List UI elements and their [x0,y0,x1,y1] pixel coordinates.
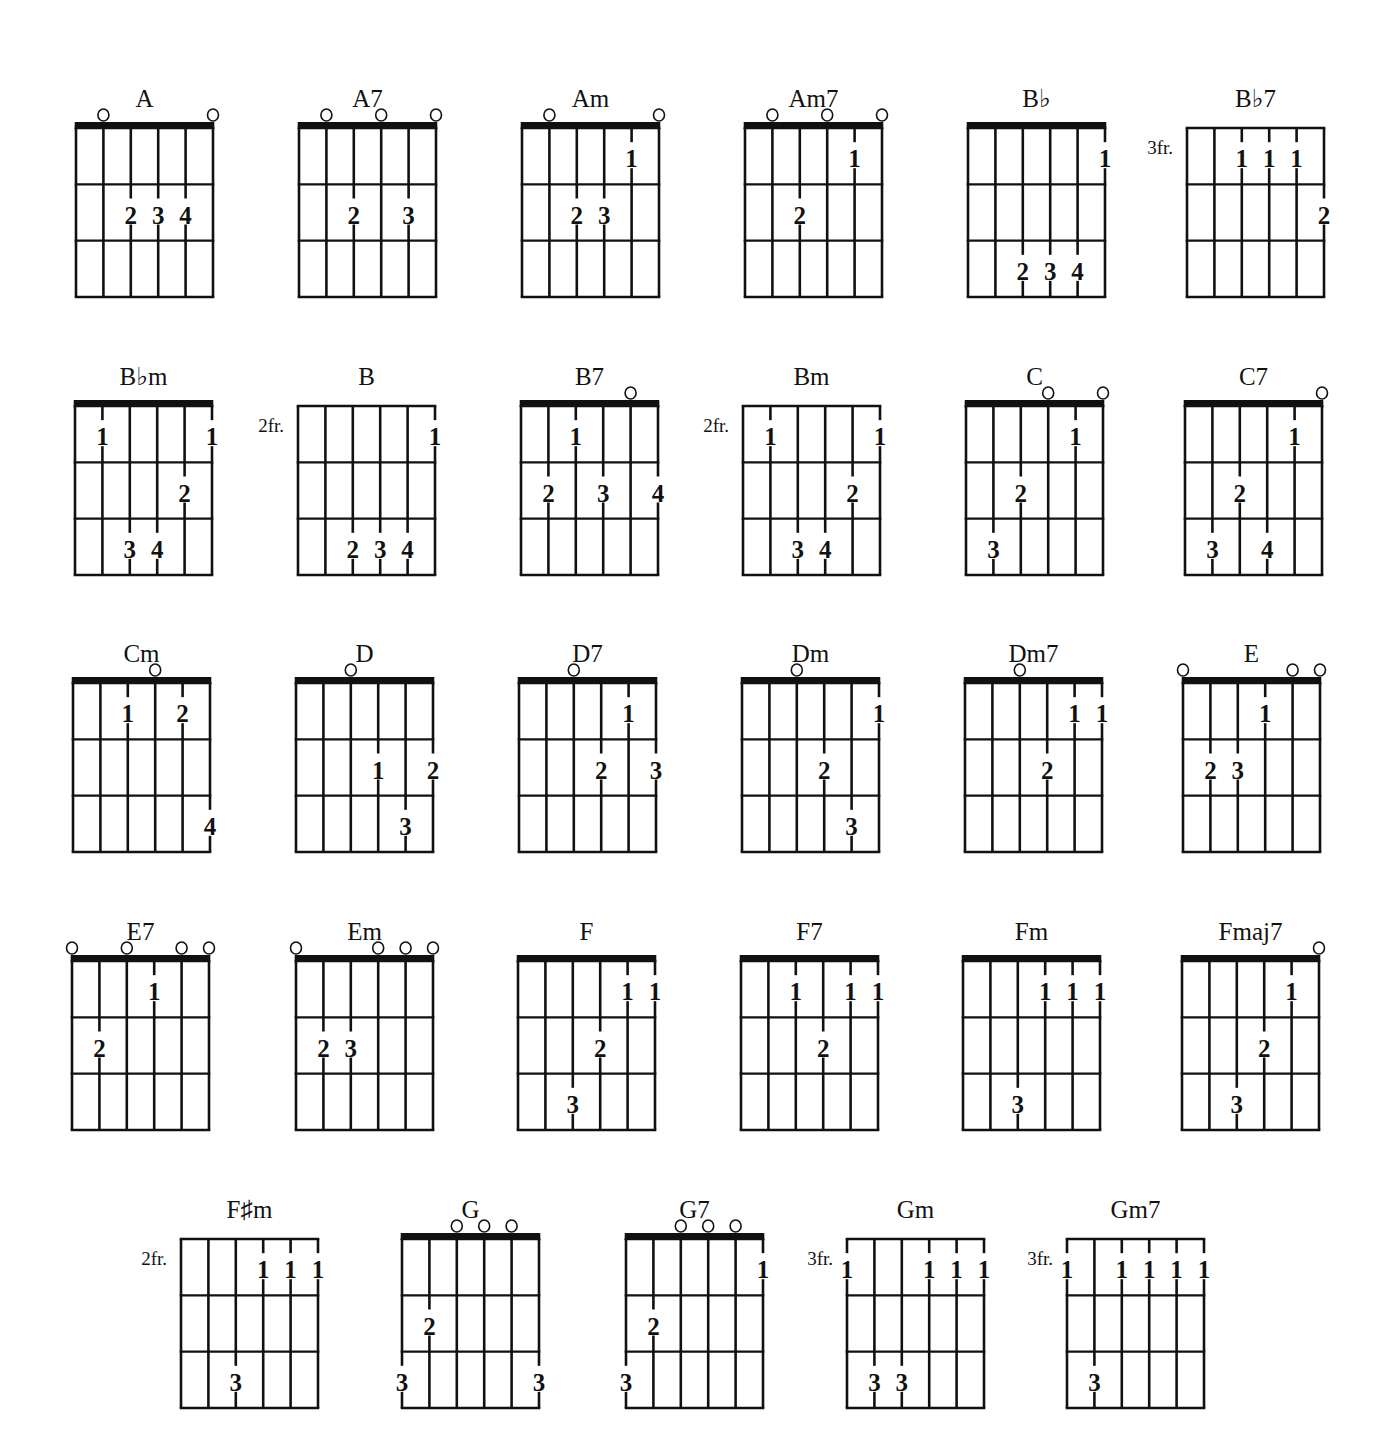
finger-number: 3 [533,1369,546,1396]
nut-bar [740,955,880,962]
finger-number: 3 [396,1369,409,1396]
finger-number: 3 [399,813,412,840]
finger-number: 1 [206,423,219,450]
open-string-icon [877,109,888,121]
finger-number: 1 [284,1256,297,1283]
finger-number: 3 [650,757,663,784]
finger-number: 3 [598,202,611,229]
open-string-icon [176,942,187,954]
open-string-icon [506,1220,517,1232]
open-string-icon [479,1220,490,1232]
chord-diagram: G233 [380,1187,560,1442]
finger-number: 2 [817,1035,830,1062]
finger-number: 1 [1096,700,1109,727]
open-string-icon [428,942,439,954]
finger-number: 2 [1234,480,1247,507]
fretboard-grid: 12 [723,76,920,315]
fretboard-grid: 123 [497,631,694,870]
nut-bar [298,122,438,129]
finger-number: 1 [96,423,109,450]
finger-number: 2 [1258,1035,1271,1062]
open-string-icon [730,1220,741,1232]
fretboard-grid: 3fr.111113 [1045,1187,1242,1426]
fretboard-grid: 233 [380,1187,577,1426]
finger-number: 1 [625,145,638,172]
chord-diagram: Gm3fr.111133 [825,1187,1005,1442]
finger-number: 2 [1041,757,1054,784]
fretboard-grid: 2fr.11234 [721,354,918,593]
chord-diagram: Fmaj7123 [1160,909,1340,1169]
finger-number: 3 [868,1369,881,1396]
finger-number: 1 [978,1256,991,1283]
finger-number: 1 [1099,145,1112,172]
finger-number: 3 [374,536,387,563]
nut-bar [518,677,658,684]
fretboard-grid: 3fr.111133 [825,1187,1022,1426]
fret-position-label: 3fr. [1147,137,1173,158]
finger-number: 4 [401,536,414,563]
finger-number: 1 [1069,423,1082,450]
fretboard-grid: 1112 [719,909,916,1148]
finger-number: 3 [620,1369,633,1396]
finger-number: 4 [179,202,192,229]
open-string-icon [1098,387,1109,399]
nut-bar [965,400,1105,407]
nut-bar [962,955,1102,962]
fretboard-grid: 2fr.1113 [159,1187,356,1426]
fretboard-grid: 123 [500,76,697,315]
finger-number: 2 [846,480,859,507]
finger-number: 1 [1263,145,1276,172]
finger-number: 2 [176,700,189,727]
fretboard-grid: 112 [943,631,1140,870]
finger-number: 1 [1170,1256,1183,1283]
open-string-icon [675,1220,686,1232]
fretboard-grid: 1234 [1163,354,1360,593]
finger-number: 3 [845,813,858,840]
finger-number: 3 [402,202,415,229]
finger-number: 2 [317,1035,330,1062]
finger-number: 1 [757,1256,770,1283]
finger-number: 1 [1198,1256,1211,1283]
fretboard-grid: 123 [274,631,471,870]
finger-number: 2 [1015,480,1028,507]
finger-number: 1 [874,423,887,450]
finger-number: 1 [1143,1256,1156,1283]
finger-number: 4 [1071,258,1084,285]
finger-number: 1 [1288,423,1301,450]
finger-number: 3 [1044,258,1057,285]
fretboard-grid: 11234 [53,354,250,593]
fretboard-grid: 123 [720,631,917,870]
finger-number: 1 [872,978,885,1005]
finger-number: 3 [1088,1369,1101,1396]
chord-diagram: Fm1113 [941,909,1121,1169]
open-string-icon [204,942,215,954]
fret-position-label: 2fr. [703,415,729,436]
finger-number: 2 [1017,258,1030,285]
fret-position-label: 3fr. [807,1248,833,1269]
finger-number: 2 [542,480,555,507]
chord-diagram: G7123 [604,1187,784,1442]
finger-number: 3 [1232,757,1245,784]
open-string-icon [1315,664,1326,676]
chord-diagram: A723 [277,76,457,336]
nut-bar [521,122,661,129]
finger-number: 1 [622,700,635,727]
open-string-icon [767,109,778,121]
finger-number: 1 [841,1256,854,1283]
finger-number: 4 [151,536,164,563]
finger-number: 2 [594,1035,607,1062]
finger-number: 2 [571,202,584,229]
open-string-icon [1043,387,1054,399]
nut-bar [295,677,435,684]
finger-number: 1 [1285,978,1298,1005]
finger-number: 1 [122,700,134,727]
fretboard-grid: 123 [944,354,1141,593]
nut-bar [1181,955,1321,962]
finger-number: 3 [1206,536,1219,563]
fretboard-grid: 123 [1160,909,1357,1148]
finger-number: 1 [1116,1256,1129,1283]
finger-number: 2 [93,1035,106,1062]
chord-diagram: B2fr.1234 [276,354,456,614]
finger-number: 2 [818,757,831,784]
open-string-icon [98,109,109,121]
